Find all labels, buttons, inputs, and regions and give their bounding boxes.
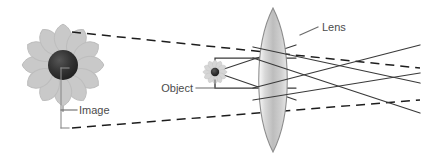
virtual-ray-lower	[72, 100, 420, 128]
lens-label: Lens	[322, 21, 346, 33]
optics-diagram-figure: Lens Object Image	[0, 0, 426, 160]
object-label: Object	[161, 82, 193, 94]
virtual-ray-upper	[72, 32, 420, 68]
object-flower-disc	[211, 68, 219, 76]
image-flower-disc	[48, 50, 78, 80]
diagram-canvas: Lens Object Image	[0, 0, 426, 160]
virtual-ray-group	[72, 32, 420, 128]
lens-leader-line	[300, 27, 318, 35]
image-label: Image	[79, 104, 110, 116]
